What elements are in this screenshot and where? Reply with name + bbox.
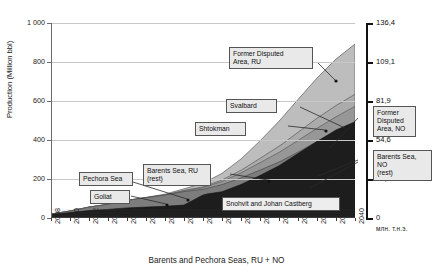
y-tick-label-400: 400 (33, 136, 45, 143)
y-tick-label-600: 600 (33, 97, 45, 104)
x-tick-2028 (241, 218, 242, 221)
x-tick-2026 (222, 218, 223, 221)
x-tick-2018 (146, 218, 147, 221)
x-tick-2010 (70, 218, 71, 221)
right-tick-label-109-1: 109,1 (376, 58, 395, 66)
x-tick-2014 (108, 218, 109, 221)
callout-pechora-sea[interactable]: Pechora Sea (79, 172, 133, 186)
y-tick-label-1000: 1 000 (27, 19, 45, 26)
x-axis-title: Barents and Pechora Seas, RU + NO (0, 256, 433, 265)
x-tick-2012 (89, 218, 90, 221)
callout-snohvit-and-johan-castberg[interactable]: Snohvit and Johan Castberg (222, 197, 340, 211)
right-tick-label-81-9: 81,9 (376, 97, 391, 105)
secondary-axis-unit: млн. т.н.э. (376, 225, 408, 232)
y-tick-label-800: 800 (33, 58, 45, 65)
x-tick-2008 (51, 218, 52, 221)
x-tick-2030 (260, 218, 261, 221)
x-tick-2034 (298, 218, 299, 221)
y-axis-title: Production (Million bbl) (5, 41, 14, 118)
x-tick-2040 (355, 218, 356, 221)
right-tick-136-4 (366, 23, 373, 25)
callout-former-disputed-area-ru[interactable]: Former Disputed Area, RU (229, 47, 313, 69)
secondary-axis-line (366, 23, 368, 218)
chart-figure: Production (Million bbl) 1 000 800 600 4… (0, 0, 433, 277)
right-tick-81-9 (366, 101, 373, 103)
y-tick-label-0: 0 (41, 214, 45, 221)
x-tick-2022 (184, 218, 185, 221)
x-tick-2036 (317, 218, 318, 221)
right-tick-label-136-4: 136,4 (376, 19, 395, 27)
x-tick-2020 (165, 218, 166, 221)
x-tick-2016 (127, 218, 128, 221)
x-tick-label-2040: 2040 (358, 208, 365, 224)
callout-goliat[interactable]: Goliat (90, 190, 130, 204)
callout-shtokman[interactable]: Shtokman (195, 122, 246, 136)
callout-former-disputed-area-no[interactable]: Former Disputed Area, NO (373, 106, 416, 137)
callout-barents-sea-ru-rest[interactable]: Barents Sea, RU (rest) (143, 164, 211, 186)
x-tick-2032 (279, 218, 280, 221)
right-tick-label-0: 0 (376, 214, 380, 222)
right-tick-27-3 (366, 179, 373, 181)
callout-svalbard[interactable]: Svalbard (226, 99, 277, 113)
right-tick-109-1 (366, 62, 373, 64)
right-tick-label-54-6: 54,6 (376, 136, 391, 144)
right-tick-54-6 (366, 140, 373, 142)
y-tick-label-200: 200 (33, 175, 45, 182)
x-tick-2024 (203, 218, 204, 221)
x-tick-2038 (336, 218, 337, 221)
right-tick-0 (366, 218, 373, 220)
callout-barents-sea-no-rest[interactable]: Barents Sea, NO (rest) (373, 150, 432, 181)
